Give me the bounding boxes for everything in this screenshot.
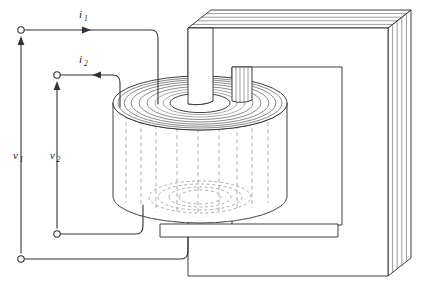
secondary-voltage-arrowhead: [54, 81, 61, 90]
terminal-secondary-top[interactable]: [54, 72, 60, 78]
primary-current-arrowhead: [82, 27, 91, 34]
core-top-yoke-face: [188, 10, 411, 28]
secondary-top-lead-wire: [60, 75, 120, 107]
label-voltage-secondary-sub: 2: [57, 155, 61, 164]
label-voltage-secondary: v: [50, 149, 55, 161]
core-center-limb-left-face: [188, 28, 213, 105]
terminal-primary-top[interactable]: [18, 27, 24, 33]
core-right-limb-face: [388, 10, 411, 276]
secondary-current-arrowhead: [92, 72, 101, 79]
label-current-secondary-sub: 2: [84, 59, 88, 68]
terminal-secondary-bottom[interactable]: [54, 231, 60, 237]
label-current-secondary: i: [79, 53, 82, 65]
label-voltage-primary: v: [13, 149, 18, 161]
terminal-primary-bottom[interactable]: [18, 256, 24, 262]
transformer-figure: i 1 i 2 v 1 v 2: [0, 0, 436, 290]
label-voltage-primary-sub: 1: [20, 155, 24, 164]
core-bottom-yoke-strip: [160, 224, 338, 237]
core-center-limb-lamination-slab: [232, 67, 252, 102]
figure-canvas: i 1 i 2 v 1 v 2: [0, 0, 436, 290]
primary-voltage-arrowhead: [18, 36, 25, 45]
label-current-primary: i: [79, 8, 82, 20]
primary-bottom-lead-wire: [24, 237, 188, 259]
label-current-primary-sub: 1: [84, 14, 88, 23]
